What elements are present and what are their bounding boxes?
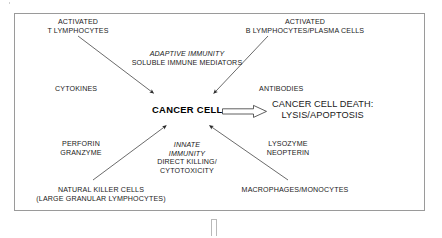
label-line: NATURAL KILLER CELLS bbox=[14, 186, 188, 195]
label-line: CYTOTOXICITY bbox=[144, 167, 230, 176]
label-line-italic: IMMUNITY bbox=[144, 150, 230, 159]
label-line: SOLUBLE IMMUNE MEDIATORS bbox=[110, 59, 264, 68]
label-line: GRANZYME bbox=[44, 149, 118, 158]
label-line: MACROPHAGES/MONOCYTES bbox=[228, 186, 362, 195]
label-line: LYSOZYME bbox=[248, 140, 328, 149]
label-line: T LYMPHOCYTES bbox=[26, 27, 130, 36]
label-innate-immunity: INNATE IMMUNITY DIRECT KILLING/ CYTOTOXI… bbox=[144, 141, 230, 175]
label-macrophages-monocytes: MACROPHAGES/MONOCYTES bbox=[228, 186, 362, 195]
label-activated-t-lymphocytes: ACTIVATED T LYMPHOCYTES bbox=[26, 18, 130, 35]
label-lysozyme-neopterin: LYSOZYME NEOPTERIN bbox=[248, 140, 328, 157]
scan-artifact-dot bbox=[9, 2, 10, 4]
label-antibodies: ANTIBODIES bbox=[259, 85, 339, 94]
label-line: PERFORIN bbox=[44, 140, 118, 149]
label-line-italic: ADAPTIVE IMMUNITY bbox=[110, 50, 264, 59]
page-edge-artifact bbox=[211, 219, 217, 236]
label-activated-b-lymphocytes: ACTIVATED B LYMPHOCYTES/PLASMA CELLS bbox=[215, 18, 395, 35]
label-natural-killer-cells: NATURAL KILLER CELLS (LARGE GRANULAR LYM… bbox=[14, 186, 188, 203]
label-line: DIRECT KILLING/ bbox=[144, 158, 230, 167]
label-line: B LYMPHOCYTES/PLASMA CELLS bbox=[215, 27, 395, 36]
label-line: NEOPTERIN bbox=[248, 149, 328, 158]
label-line: ACTIVATED bbox=[26, 18, 130, 27]
outcome-line: LYSIS/APOPTOSIS bbox=[272, 110, 373, 121]
label-line: ACTIVATED bbox=[215, 18, 395, 27]
label-perforin-granzyme: PERFORIN GRANZYME bbox=[44, 140, 118, 157]
outcome-cancer-cell-death: CANCER CELL DEATH: LYSIS/APOPTOSIS bbox=[272, 99, 373, 121]
diagram-page: ACTIVATED T LYMPHOCYTES ACTIVATED B LYMP… bbox=[0, 0, 442, 238]
label-line: ANTIBODIES bbox=[259, 85, 339, 94]
label-line: CYTOKINES bbox=[55, 85, 135, 94]
label-cytokines: CYTOKINES bbox=[55, 85, 135, 94]
center-node-cancer-cell: CANCER CELL bbox=[152, 104, 223, 115]
label-line: (LARGE GRANULAR LYMPHOCYTES) bbox=[14, 195, 188, 204]
label-line-italic: INNATE bbox=[144, 141, 230, 150]
label-adaptive-immunity: ADAPTIVE IMMUNITY SOLUBLE IMMUNE MEDIATO… bbox=[110, 50, 264, 67]
outcome-line: CANCER CELL DEATH: bbox=[272, 99, 373, 110]
